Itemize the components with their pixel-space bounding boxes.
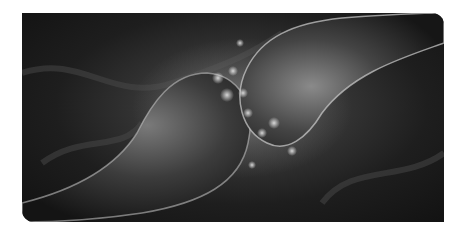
synapse-image [22,13,444,222]
synapse-illustration [22,13,444,222]
